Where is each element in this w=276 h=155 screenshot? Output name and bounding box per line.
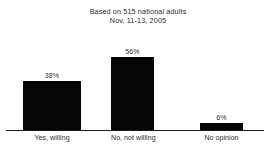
bar-chart: Based on 515 national adults Nov. 11-13,…	[0, 0, 276, 155]
bar-group-no-not-willing: 56%	[111, 37, 154, 131]
x-axis-category-labels: Yes, willing No, not willing No opinion	[0, 134, 276, 146]
x-axis-line	[6, 130, 264, 131]
category-label-no-opinion: No opinion	[200, 134, 243, 141]
bar-value-label: 6%	[216, 114, 226, 121]
bar-group-no-opinion: 6%	[200, 37, 243, 131]
bar-group-yes-willing: 38%	[23, 37, 81, 131]
chart-header: Based on 515 national adults Nov. 11-13,…	[0, 8, 276, 25]
bar-value-label: 38%	[45, 72, 59, 79]
chart-subtitle: Nov. 11-13, 2005	[0, 17, 276, 26]
category-label-yes-willing: Yes, willing	[23, 134, 81, 141]
category-label-no-not-willing: No, not willing	[111, 134, 154, 141]
bar-yes-willing	[23, 81, 81, 131]
bar-no-not-willing	[111, 57, 154, 131]
bar-value-label: 56%	[125, 48, 139, 55]
plot-area: 38% 56% 6%	[0, 36, 276, 132]
